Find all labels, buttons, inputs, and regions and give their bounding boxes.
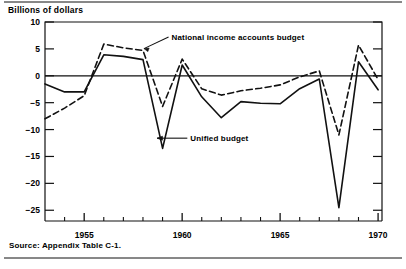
x-axis-tick-labels: 1955196019651970 — [75, 230, 388, 240]
axis-title-group: Billions of dollars — [8, 5, 83, 15]
series-line-unified — [45, 55, 378, 208]
annotation-nia-leader — [144, 37, 169, 49]
y-tick-label: 5 — [35, 44, 40, 54]
y-axis-ticks — [45, 22, 382, 210]
plot-border — [45, 22, 382, 221]
series-line-nia — [45, 44, 378, 135]
annotation-unified-label: Unified budget — [190, 134, 248, 143]
y-tick-label: 0 — [35, 71, 40, 81]
source-note: Source: Appendix Table C-1. — [9, 241, 121, 250]
y-tick-label: −5 — [30, 98, 40, 108]
y-axis-tick-labels: 1050−5−10−15−20−25 — [26, 17, 41, 215]
x-tick-label: 1970 — [369, 230, 388, 240]
y-tick-label: −10 — [26, 125, 41, 135]
x-tick-label: 1965 — [271, 230, 290, 240]
x-tick-label: 1960 — [173, 230, 192, 240]
chart-figure: Billions of dollars 1050−5−10−15−20−25 1… — [0, 0, 406, 269]
annotation-nia-arrowhead — [144, 48, 149, 52]
x-tick-label: 1955 — [75, 230, 94, 240]
y-tick-label: −25 — [26, 205, 41, 215]
plot-frame — [45, 22, 382, 221]
y-tick-label: 10 — [31, 17, 41, 27]
budget-line-chart: Billions of dollars 1050−5−10−15−20−25 1… — [0, 0, 406, 269]
x-axis-ticks — [65, 213, 378, 221]
y-tick-label: −15 — [26, 151, 41, 161]
data-series-group — [45, 44, 378, 208]
y-tick-label: −20 — [26, 178, 41, 188]
axis-title: Billions of dollars — [8, 5, 83, 15]
annotation-nia-label: National income accounts budget — [172, 33, 305, 42]
